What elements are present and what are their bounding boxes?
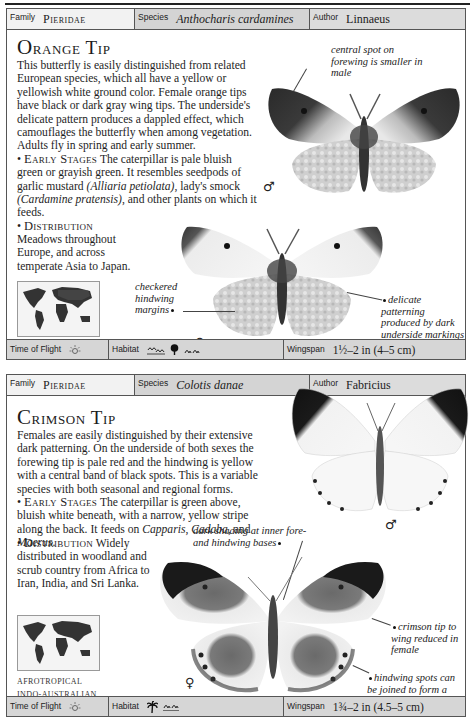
habitat-cell: Habitat (109, 697, 284, 716)
wingspan-cell: Wingspan 1¾–2 in (4.5–5 cm) (284, 697, 465, 716)
wingspan-label: Wingspan (287, 344, 325, 354)
world-map-icon (18, 616, 99, 670)
plant-name: (Cardamine pratensis) (17, 193, 122, 206)
wingspan-value: 1½–2 in (4–5 cm) (333, 344, 415, 356)
palm-tree-icon (147, 701, 158, 713)
species-value: Anthocharis cardamines (176, 12, 293, 27)
leader-line (183, 311, 235, 312)
family-cell: Family Pieridae (7, 9, 135, 29)
male-butterfly-image (264, 79, 464, 199)
leader-dot (369, 677, 372, 680)
species-cell: Species Colotis danae (135, 375, 310, 395)
time-of-flight-label: Time of Flight (10, 701, 61, 711)
habitat-label: Habitat (112, 701, 139, 711)
plant-name: Capparis (142, 523, 185, 536)
distribution-heading: Distribution (24, 536, 93, 550)
leader-dot (171, 309, 174, 312)
species-entry-orange-tip: Family Pieridae Species Anthocharis card… (6, 8, 466, 360)
caption-dark-shading: dark shading at inner fore- and hindwing… (193, 525, 323, 548)
leader-dot (383, 299, 386, 302)
early-stages-heading: Early Stages (24, 152, 97, 166)
caption-text: dark shading at inner fore- and hindwing… (193, 525, 306, 548)
description-text: Females are easily distinguished by thei… (17, 429, 258, 496)
early-stages-heading: Early Stages (24, 495, 97, 509)
plant-name: (Alliaria petiolata) (87, 180, 175, 193)
species-entry-crimson-tip: Family Pieridae Species Colotis danae Au… (6, 374, 466, 717)
wingspan-cell: Wingspan 1½–2 in (4–5 cm) (284, 340, 465, 359)
leader-dot (278, 542, 281, 545)
top-rule (5, 3, 470, 5)
female-symbol: ♀ (185, 675, 195, 690)
world-map-icon (18, 282, 99, 336)
world-map (17, 615, 100, 671)
time-of-flight-cell: Time of Flight (7, 340, 109, 359)
male-symbol: ♂ (385, 517, 397, 532)
male-butterfly-image (287, 381, 472, 521)
distribution-text: Meadows throughout Europe, and across te… (17, 233, 137, 273)
author-value: Linnaeus (346, 12, 390, 27)
page-title: Crimson Tip (17, 405, 116, 430)
caption-crimson-tip: crimson tip to wing reduced in female (391, 621, 467, 656)
author-label: Author (313, 12, 338, 22)
species-cell: Species Anthocharis cardamines (135, 9, 310, 29)
sun-icon (69, 344, 81, 356)
entry-footer: Time of Flight Habitat Wingspan 1¾–2 in … (7, 696, 465, 716)
grassland-icon (184, 346, 200, 354)
family-value: Pieridae (43, 12, 86, 27)
family-value: Pieridae (43, 378, 86, 393)
tree-icon (170, 344, 179, 355)
wingspan-value: 1¾–2 in (4.5–5 cm) (333, 701, 424, 713)
family-label: Family (10, 378, 35, 388)
male-symbol: ♂ (263, 179, 275, 194)
species-value: Colotis danae (176, 378, 243, 393)
species-label: Species (138, 378, 168, 388)
distribution-heading: Distribution (24, 219, 93, 233)
caption-text: crimson tip to wing reduced in female (391, 621, 458, 655)
time-of-flight-label: Time of Flight (10, 344, 61, 354)
early-stages-text: , lady's smock (174, 180, 240, 193)
region-label: AFROTROPICAL (17, 675, 82, 688)
female-butterfly-image (175, 219, 390, 344)
family-label: Family (10, 12, 35, 22)
species-label: Species (138, 12, 168, 22)
leader-dot (393, 626, 396, 629)
habitat-cell: Habitat (109, 340, 284, 359)
description-block: This butterfly is easily distinguished f… (17, 59, 257, 233)
family-cell: Family Pieridae (7, 375, 135, 395)
description-text: This butterfly is easily distinguished f… (17, 59, 252, 152)
wingspan-label: Wingspan (287, 701, 325, 711)
grassland-icon (163, 702, 179, 711)
page-title: Orange Tip (17, 35, 111, 60)
habitat-label: Habitat (112, 344, 139, 354)
caption-text: central spot on forewing is smaller in m… (331, 44, 423, 78)
time-of-flight-cell: Time of Flight (7, 697, 109, 716)
wetland-icon (147, 345, 165, 355)
caption-male-spot: central spot on forewing is smaller in m… (331, 44, 431, 79)
sun-icon (69, 701, 81, 713)
entry-header: Family Pieridae Species Anthocharis card… (7, 9, 465, 30)
distribution-block: • Distribution Widely distributed in woo… (17, 537, 167, 591)
entry-footer: Time of Flight Habitat Wingspan 1½–2 in … (7, 339, 465, 359)
world-map (17, 281, 100, 337)
author-cell: Author Linnaeus (310, 9, 465, 29)
